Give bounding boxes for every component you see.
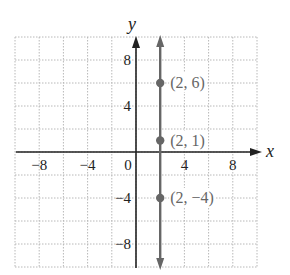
- axes: x y: [16, 14, 274, 268]
- data-point: [156, 79, 164, 87]
- x-axis-arrow-icon: [250, 148, 262, 156]
- data-point: [156, 194, 164, 202]
- point-label: (2, 1): [170, 132, 205, 150]
- y-tick-label: 8: [124, 52, 132, 68]
- point-label: (2, 6): [170, 74, 205, 92]
- graph: x y −8−404884−4−8 (2, 6)(2, 1)(2, −4): [0, 0, 290, 275]
- data-point: [156, 136, 164, 144]
- y-tick-label: −4: [115, 190, 131, 206]
- y-axis-label: y: [126, 14, 136, 34]
- x-tick-label: 8: [229, 157, 237, 173]
- y-tick-label: 4: [124, 98, 132, 114]
- y-axis-arrow-icon: [132, 36, 140, 48]
- x-tick-label: −8: [31, 157, 47, 173]
- x-axis-label: x: [265, 141, 274, 161]
- arrow-down-icon: [156, 258, 164, 270]
- x-tick-label: −4: [80, 157, 96, 173]
- x-tick-label: 4: [181, 157, 189, 173]
- point-label: (2, −4): [170, 189, 214, 207]
- x-tick-label: 0: [124, 157, 132, 173]
- y-tick-label: −8: [115, 236, 131, 252]
